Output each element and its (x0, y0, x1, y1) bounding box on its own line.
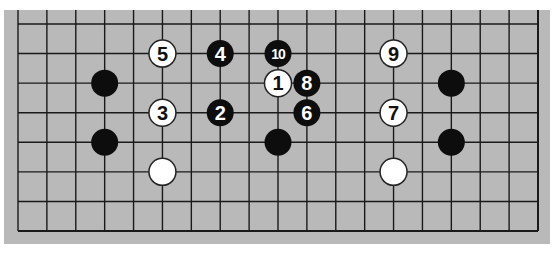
stone-circle (438, 70, 465, 97)
move-number: 5 (157, 43, 168, 65)
black-stone: 8 (293, 70, 320, 97)
move-number: 1 (272, 72, 283, 94)
move-number: 2 (215, 102, 226, 124)
white-stone: 9 (380, 40, 407, 67)
stone-circle (438, 129, 465, 156)
white-stone: 3 (149, 99, 176, 126)
white-stone: 1 (265, 70, 292, 97)
move-number: 4 (215, 43, 227, 65)
white-stone (380, 158, 407, 185)
stone-circle (91, 129, 118, 156)
black-stone: 10 (265, 40, 292, 67)
move-number: 10 (271, 46, 286, 62)
black-stone: 6 (293, 99, 320, 126)
move-number: 7 (388, 102, 399, 124)
move-number: 3 (157, 102, 168, 124)
go-board-diagram: 54109183267 (0, 0, 552, 254)
stone-circle (265, 129, 292, 156)
move-number: 8 (301, 72, 312, 94)
black-stone: 4 (207, 40, 234, 67)
move-number: 6 (301, 102, 312, 124)
white-stone (149, 158, 176, 185)
black-stone (91, 70, 118, 97)
white-stone: 7 (380, 99, 407, 126)
black-stone (438, 70, 465, 97)
black-stone: 2 (207, 99, 234, 126)
white-stone: 5 (149, 40, 176, 67)
black-stone (91, 129, 118, 156)
black-stone (438, 129, 465, 156)
stone-circle (149, 158, 176, 185)
stone-circle (91, 70, 118, 97)
move-number: 9 (388, 43, 399, 65)
stone-circle (380, 158, 407, 185)
black-stone (265, 129, 292, 156)
